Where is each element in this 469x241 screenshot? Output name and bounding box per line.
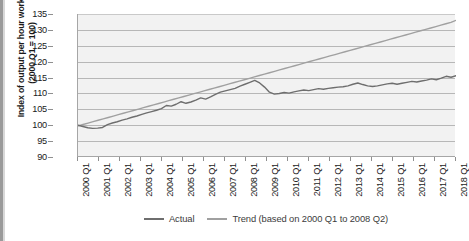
y-tick-mark-130 (48, 30, 53, 31)
x-tick-label-4: 2004 Q1 (165, 163, 175, 197)
x-tick-label-0: 2000 Q1 (81, 163, 91, 197)
x-tick-label-14: 2014 Q1 (375, 163, 385, 197)
x-tick-mark-14 (371, 157, 372, 161)
y-tick-mark-90 (48, 157, 53, 158)
y-tick-mark-125 (48, 46, 53, 47)
x-tick-label-11: 2011 Q1 (312, 163, 322, 196)
x-tick-label-1: 2001 Q1 (102, 163, 112, 197)
legend-label: Actual (169, 213, 194, 224)
legend-item-actual[interactable]: Actual (144, 213, 194, 224)
x-tick-label-5: 2005 Q1 (186, 163, 196, 197)
y-tick-mark-110 (48, 93, 53, 94)
x-tick-mark-4 (161, 157, 162, 161)
x-tick-mark-1 (98, 157, 99, 161)
y-tick-label-110: 110 (7, 88, 47, 98)
y-tick-label-95: 95 (7, 136, 47, 146)
y-tick-label-90: 90 (7, 152, 47, 162)
x-tick-mark-11 (308, 157, 309, 161)
y-tick-label-105: 105 (7, 104, 47, 114)
x-tick-mark-7 (224, 157, 225, 161)
x-tick-label-15: 2015 Q1 (396, 163, 406, 197)
x-tick-label-9: 2009 Q1 (270, 163, 280, 197)
x-tick-label-17: 2017 Q1 (438, 163, 448, 197)
y-tick-label-130: 130 (7, 25, 47, 35)
y-tick-mark-135 (48, 14, 53, 15)
x-axis-ticks: 2000 Q12001 Q12002 Q12003 Q12004 Q12005 … (77, 157, 455, 217)
legend-swatch-icon (144, 218, 164, 220)
legend-label: Trend (based on 2000 Q1 to 2008 Q2) (232, 213, 388, 224)
x-tick-mark-13 (350, 157, 351, 161)
x-tick-mark-12 (329, 157, 330, 161)
y-axis-ticks: 9095100105110115120125130135 (0, 0, 77, 171)
y-tick-label-120: 120 (7, 57, 47, 67)
legend-swatch-icon (207, 218, 227, 220)
y-tick-mark-105 (48, 109, 53, 110)
x-tick-mark-9 (266, 157, 267, 161)
legend-item-trend[interactable]: Trend (based on 2000 Q1 to 2008 Q2) (207, 213, 388, 224)
x-tick-label-2: 2002 Q1 (123, 163, 133, 197)
x-tick-mark-15 (392, 157, 393, 161)
x-tick-label-6: 2006 Q1 (207, 163, 217, 197)
y-tick-mark-100 (48, 125, 53, 126)
x-tick-label-16: 2016 Q1 (417, 163, 427, 197)
x-tick-label-13: 2013 Q1 (354, 163, 364, 197)
x-tick-mark-10 (287, 157, 288, 161)
x-tick-label-18: 2018 Q1 (459, 163, 469, 197)
x-tick-label-10: 2010 Q1 (291, 163, 301, 197)
series-line-actual (78, 76, 456, 129)
x-tick-mark-16 (413, 157, 414, 161)
x-tick-mark-8 (245, 157, 246, 161)
y-tick-label-135: 135 (7, 9, 47, 19)
x-tick-label-12: 2012 Q1 (333, 163, 343, 197)
x-tick-mark-0 (77, 157, 78, 161)
x-tick-mark-6 (203, 157, 204, 161)
y-tick-label-100: 100 (7, 120, 47, 130)
x-tick-label-8: 2008 Q1 (249, 163, 259, 197)
x-tick-label-3: 2003 Q1 (144, 163, 154, 197)
chart-legend: ActualTrend (based on 2000 Q1 to 2008 Q2… (77, 213, 455, 224)
y-tick-mark-95 (48, 141, 53, 142)
series-layer (78, 14, 456, 157)
series-line-trend (78, 20, 456, 126)
x-tick-mark-17 (434, 157, 435, 161)
plot-area (77, 14, 455, 157)
x-tick-mark-18 (455, 157, 456, 161)
y-tick-label-115: 115 (7, 73, 47, 83)
y-tick-mark-115 (48, 78, 53, 79)
x-tick-mark-3 (140, 157, 141, 161)
x-tick-mark-2 (119, 157, 120, 161)
x-tick-mark-5 (182, 157, 183, 161)
y-tick-mark-120 (48, 62, 53, 63)
y-tick-label-125: 125 (7, 41, 47, 51)
x-tick-label-7: 2007 Q1 (228, 163, 238, 197)
